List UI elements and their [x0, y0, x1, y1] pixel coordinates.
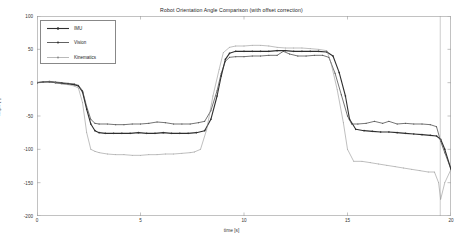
legend-label-vision: Vision: [74, 40, 86, 45]
x-tick-label: 15: [338, 218, 358, 223]
legend-swatch-kinematics: [46, 54, 70, 61]
legend-item-kinematics[interactable]: Kinematics: [41, 50, 115, 65]
x-tick-label: 20: [441, 218, 461, 223]
legend-item-imu[interactable]: IMU: [41, 21, 115, 36]
x-tick-label: 10: [234, 218, 254, 223]
legend-swatch-imu: [46, 25, 70, 32]
x-tick-label: 5: [131, 218, 151, 223]
chart-title: Robot Orientation Angle Comparison (with…: [0, 7, 463, 13]
series-kinematics: [37, 45, 451, 200]
y-tick-label: 50: [11, 47, 33, 52]
legend-item-vision[interactable]: Vision: [41, 36, 115, 51]
x-axis-label: time [s]: [0, 228, 463, 233]
legend-label-kinematics: Kinematics: [74, 55, 96, 60]
y-tick-label: 0: [11, 80, 33, 85]
y-tick-label: -50: [11, 114, 33, 119]
series-lines: [37, 45, 451, 200]
y-tick-label: -100: [11, 147, 33, 152]
legend-swatch-vision: [46, 39, 70, 46]
y-tick-label: -150: [11, 180, 33, 185]
chart-figure: Robot Orientation Angle Comparison (with…: [0, 0, 463, 243]
series-imu: [37, 50, 451, 170]
series-vision: [37, 51, 451, 170]
x-tick-label: 0: [27, 218, 47, 223]
chart-legend[interactable]: IMU Vision Kinematics: [40, 20, 116, 64]
y-axis-label: angle [°]: [0, 98, 1, 116]
y-tick-label: 100: [11, 14, 33, 19]
legend-label-imu: IMU: [74, 26, 82, 31]
